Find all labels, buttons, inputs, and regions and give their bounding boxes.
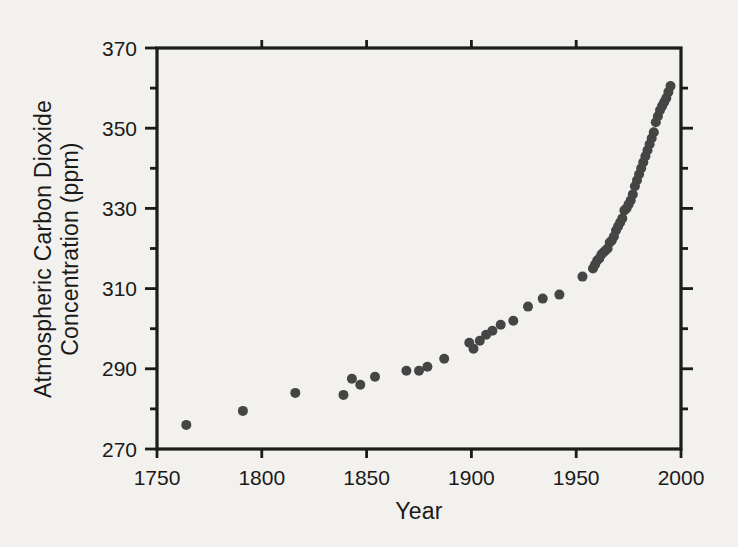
x-tick-label: 1950: [553, 466, 600, 489]
data-point: [370, 372, 380, 382]
data-point: [181, 420, 191, 430]
data-point: [554, 290, 564, 300]
x-tick-label: 1800: [238, 466, 285, 489]
data-point: [538, 294, 548, 304]
data-point: [339, 390, 349, 400]
data-point: [422, 362, 432, 372]
y-tick-label: 310: [102, 277, 137, 300]
data-point: [290, 388, 300, 398]
data-point: [496, 320, 506, 330]
data-point: [347, 374, 357, 384]
data-point: [649, 127, 659, 137]
data-point: [523, 302, 533, 312]
data-point: [401, 366, 411, 376]
x-tick-label: 1750: [134, 466, 181, 489]
x-axis-title: Year: [157, 498, 681, 525]
data-point: [508, 316, 518, 326]
x-tick-label: 2000: [658, 466, 705, 489]
tick-labels: 2702903103303503701750180018501900195020…: [102, 37, 704, 490]
x-tick-label: 1900: [448, 466, 495, 489]
data-points: [181, 81, 675, 430]
data-point: [578, 272, 588, 282]
y-tick-label: 350: [102, 117, 137, 140]
data-point: [666, 81, 676, 91]
data-point: [439, 354, 449, 364]
plot-svg: 2702903103303503701750180018501900195020…: [0, 0, 738, 547]
y-tick-label: 290: [102, 357, 137, 380]
y-axis-title-line1: Atmospheric Carbon Dioxide: [30, 100, 57, 398]
data-point: [355, 380, 365, 390]
data-point: [469, 344, 479, 354]
x-tick-label: 1850: [343, 466, 390, 489]
y-axis-title-line2: Concentration (ppm): [57, 100, 84, 398]
y-tick-label: 270: [102, 438, 137, 461]
y-tick-label: 330: [102, 197, 137, 220]
data-point: [238, 406, 248, 416]
co2-scatter-figure: 2702903103303503701750180018501900195020…: [0, 0, 738, 547]
y-tick-label: 370: [102, 37, 137, 60]
data-point: [487, 326, 497, 336]
